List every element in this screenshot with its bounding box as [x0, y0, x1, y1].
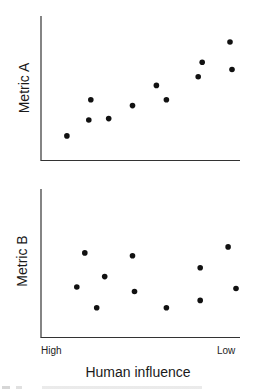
data-point: [227, 39, 233, 45]
data-point: [86, 117, 92, 123]
plot-canvas: [0, 0, 256, 389]
data-point: [64, 133, 70, 139]
top-panel-points: [64, 39, 235, 139]
bottom-y-axis-label: Metric B: [14, 235, 30, 286]
x-tick-high: High: [41, 345, 62, 356]
data-point: [106, 116, 112, 122]
top-y-axis-label: Metric A: [16, 63, 32, 114]
data-point: [199, 59, 205, 65]
data-point: [154, 83, 160, 89]
data-point: [82, 250, 88, 256]
data-point: [197, 265, 203, 271]
data-point: [229, 67, 235, 73]
scatter-figure: Metric A Metric B High Low Human influen…: [0, 0, 256, 389]
data-point: [164, 97, 170, 103]
data-point: [164, 305, 170, 311]
bottom-panel-points: [74, 244, 239, 311]
top-panel-axes: [41, 16, 241, 161]
data-point: [130, 103, 136, 109]
data-point: [197, 298, 203, 304]
data-point: [225, 244, 231, 250]
x-tick-low: Low: [217, 345, 235, 356]
data-point: [102, 274, 108, 280]
x-axis-label: Human influence: [85, 364, 190, 380]
data-point: [88, 97, 94, 103]
data-point: [233, 286, 239, 292]
bottom-panel-axes: [41, 189, 241, 338]
data-point: [195, 74, 201, 80]
data-point: [74, 284, 80, 290]
data-point: [130, 253, 136, 259]
data-point: [94, 305, 100, 311]
data-point: [132, 289, 138, 295]
